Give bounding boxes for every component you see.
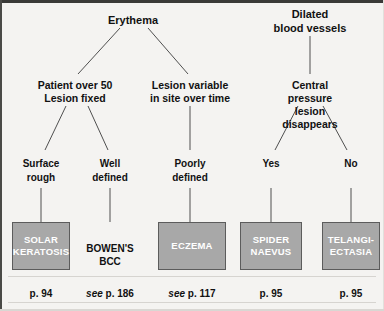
divider-above-page-refs — [8, 276, 376, 277]
page-ref-bowens-bcc-prefix: see — [86, 288, 105, 299]
page-ref-eczema-value: p. 117 — [188, 288, 216, 299]
page-ref-spider-naevus-value: p. 95 — [260, 288, 283, 299]
divider-below-page-refs — [8, 302, 376, 303]
branch-label-no-text: No — [344, 158, 357, 169]
node-lesion-variable-label: Lesion variable in site over time — [150, 79, 230, 104]
node-erythema: Erythema — [108, 14, 158, 28]
diagnosis-box-telangiectasia: TELANGI- ECTASIA — [322, 222, 380, 270]
diagnosis-box-eczema: ECZEMA — [158, 222, 226, 270]
node-central-pressure: Central pressure lesion disappears — [273, 79, 347, 131]
page-ref-bowens-bcc: see p. 186 — [86, 288, 134, 299]
branch-label-poorly-defined: Poorly defined — [172, 157, 208, 184]
node-lesion-variable: Lesion variable in site over time — [150, 79, 230, 105]
branch-label-well-defined-text: Well defined — [92, 158, 128, 183]
page-ref-spider-naevus: p. 95 — [260, 288, 283, 299]
frame-left-border — [0, 0, 2, 311]
page-ref-solar-keratosis-value: p. 94 — [30, 288, 53, 299]
flowchart-canvas: Erythema Dilated blood vessels Patient o… — [0, 0, 384, 311]
diagnosis-eczema-label: ECZEMA — [171, 240, 212, 253]
diagnosis-bowens-bcc-label: BOWEN'S BCC — [86, 243, 133, 268]
branch-label-yes: Yes — [262, 157, 279, 171]
node-patient-over-50-label: Patient over 50 Lesion fixed — [38, 79, 113, 104]
node-patient-over-50: Patient over 50 Lesion fixed — [38, 79, 113, 105]
page-ref-telangiectasia-value: p. 95 — [340, 288, 363, 299]
node-dilated-blood-vessels-label: Dilated blood vessels — [274, 8, 347, 34]
diagnosis-text-bowens-bcc: BOWEN'S BCC — [65, 228, 155, 269]
frame-top-border — [0, 0, 384, 3]
page-ref-eczema: see p. 117 — [168, 288, 215, 299]
page-ref-telangiectasia: p. 95 — [340, 288, 363, 299]
diagnosis-spider-naevus-label: SPIDER NAEVUS — [251, 234, 292, 259]
node-dilated-blood-vessels: Dilated blood vessels — [274, 8, 347, 35]
diagnosis-solar-keratosis-label: SOLAR KERATOSIS — [13, 234, 69, 259]
page-ref-solar-keratosis: p. 94 — [30, 288, 53, 299]
branch-label-surface-rough: Surface rough — [23, 157, 60, 184]
branch-label-well-defined: Well defined — [92, 157, 128, 184]
branch-label-poorly-defined-text: Poorly defined — [172, 158, 208, 183]
page-ref-eczema-prefix: see — [168, 288, 187, 299]
diagnosis-box-solar-keratosis: SOLAR KERATOSIS — [12, 222, 70, 270]
node-central-pressure-label: Central pressure lesion disappears — [282, 79, 337, 130]
node-erythema-label: Erythema — [108, 14, 158, 26]
branch-label-no: No — [344, 157, 357, 171]
diagnosis-box-spider-naevus: SPIDER NAEVUS — [240, 222, 302, 270]
page-ref-bowens-bcc-value: p. 186 — [106, 288, 134, 299]
diagnosis-telangiectasia-label: TELANGI- ECTASIA — [328, 234, 374, 259]
branch-label-yes-text: Yes — [262, 158, 279, 169]
branch-label-surface-rough-text: Surface rough — [23, 158, 60, 183]
